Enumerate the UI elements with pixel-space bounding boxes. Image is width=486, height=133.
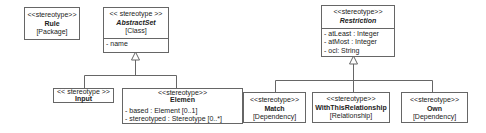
element-name: Rule bbox=[25, 20, 79, 29]
metaclass-label: [Dependency] bbox=[244, 113, 305, 122]
own-stereotype-box[interactable]: <<stereotype>> Own [Dependency] bbox=[401, 92, 468, 123]
attribute: - atMost : Integer bbox=[324, 38, 392, 46]
generalization-arrow-abstractset bbox=[132, 52, 140, 60]
generalization-arrow-restriction bbox=[350, 56, 358, 64]
element-name: Own bbox=[402, 105, 467, 114]
stereotype-label: <<stereotype>> bbox=[402, 96, 467, 105]
attribute-compartment: - name bbox=[104, 38, 168, 50]
stereotype-label: <<stereotype>> bbox=[123, 89, 242, 96]
stereotype-label: <<stereotype>> bbox=[244, 96, 305, 105]
metaclass-label: [Class] bbox=[104, 27, 168, 36]
stereotype-label: <<stereotype>> bbox=[322, 8, 394, 17]
attribute-compartment: - based : Element [0..1] - stereotyped :… bbox=[123, 104, 242, 124]
stereotype-label: <<stereotype>> bbox=[313, 95, 389, 104]
withthisrelationship-stereotype-box[interactable]: <<stereotype>> WithThisRelationship [Rel… bbox=[312, 92, 390, 123]
element-name: WithThisRelationship bbox=[313, 104, 389, 113]
attribute: - atLeast : Integer bbox=[324, 30, 392, 38]
attribute: - stereotyped : Stereotype [0..*] bbox=[125, 115, 240, 123]
element-name: Match bbox=[244, 105, 305, 114]
input-stereotype-box[interactable]: << stereotype >> Input bbox=[53, 88, 114, 103]
element-name: Elemen bbox=[123, 96, 242, 103]
stereotype-label: <<stereotype>> bbox=[25, 11, 79, 20]
metaclass-label: [Relationship] bbox=[313, 112, 389, 121]
restriction-stereotype-box[interactable]: <<stereotype>> Restriction - atLeast : I… bbox=[321, 5, 395, 57]
abstractset-stereotype-box[interactable]: << stereotype >> AbstractSet [Class] - n… bbox=[103, 7, 169, 53]
attribute: - ocl: String bbox=[324, 47, 392, 55]
match-stereotype-box[interactable]: <<stereotype>> Match [Dependency] bbox=[243, 92, 306, 123]
attribute-compartment: - atLeast : Integer - atMost : Integer -… bbox=[322, 28, 394, 56]
attribute: - name bbox=[106, 40, 166, 49]
rule-stereotype-box[interactable]: <<stereotype>> Rule [Package] bbox=[24, 7, 80, 40]
elemen-stereotype-box[interactable]: <<stereotype>> Elemen - based : Element … bbox=[122, 88, 243, 124]
metaclass-label: [Package] bbox=[25, 28, 79, 37]
stereotype-label: << stereotype >> bbox=[104, 10, 168, 19]
attribute: - based : Element [0..1] bbox=[125, 107, 240, 115]
metaclass-label: [Dependency] bbox=[402, 113, 467, 122]
element-name: AbstractSet bbox=[104, 19, 168, 28]
element-name: Input bbox=[54, 96, 113, 103]
element-name: Restriction bbox=[322, 17, 394, 26]
